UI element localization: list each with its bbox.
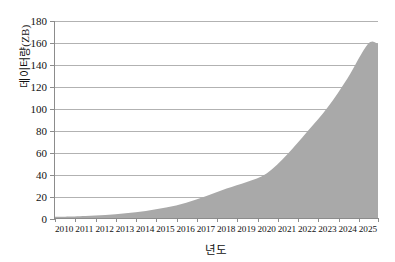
y-axis-tick xyxy=(50,109,55,110)
area-series-path xyxy=(55,41,378,218)
x-axis-tick-label: 2024 xyxy=(338,224,356,234)
plot-area: 020406080100120140160180 xyxy=(54,21,378,219)
x-axis-tick xyxy=(278,218,279,222)
y-axis-tick xyxy=(50,65,55,66)
x-axis-tick-label: 2013 xyxy=(116,224,134,234)
x-axis-tick-label: 2018 xyxy=(217,224,235,234)
x-axis-tick-label: 2025 xyxy=(359,224,377,234)
x-axis-tick-label: 2015 xyxy=(156,224,174,234)
x-axis-tick xyxy=(359,218,360,222)
y-axis-tick-label: 100 xyxy=(31,103,48,115)
y-axis-tick xyxy=(50,21,55,22)
x-axis-tick-label: 2016 xyxy=(176,224,194,234)
x-axis-tick-label: 2022 xyxy=(298,224,316,234)
y-axis-tick-label: 160 xyxy=(31,37,48,49)
y-axis-tick-label: 20 xyxy=(36,191,47,203)
y-axis-tick-label: 60 xyxy=(36,147,47,159)
x-axis-tick xyxy=(318,218,319,222)
area-series-svg xyxy=(55,21,378,218)
y-axis-tick-label: 0 xyxy=(42,213,48,225)
area-series xyxy=(55,21,378,218)
x-axis-tick xyxy=(75,218,76,222)
y-axis-tick xyxy=(50,43,55,44)
x-axis-tick xyxy=(237,218,238,222)
x-axis-tick xyxy=(136,218,137,222)
x-axis-tick xyxy=(298,218,299,222)
y-axis-tick xyxy=(50,153,55,154)
x-axis-tick-label: 2019 xyxy=(237,224,255,234)
x-axis-tick-label: 2014 xyxy=(136,224,154,234)
x-axis-tick xyxy=(339,218,340,222)
y-axis-tick-label: 80 xyxy=(36,125,47,137)
y-axis-tick-label: 140 xyxy=(31,59,48,71)
y-axis-tick-label: 40 xyxy=(36,169,47,181)
x-axis-tick-label: 2017 xyxy=(197,224,215,234)
x-axis-title: 년도 xyxy=(54,241,378,257)
y-axis-tick xyxy=(50,131,55,132)
x-axis-tick-label: 2012 xyxy=(95,224,113,234)
x-axis-tick xyxy=(378,218,379,222)
x-axis-tick-label: 2010 xyxy=(55,224,73,234)
x-axis-tick-label: 2023 xyxy=(318,224,336,234)
x-axis-tick xyxy=(96,218,97,222)
y-axis-tick-label: 180 xyxy=(31,15,48,27)
x-axis-tick xyxy=(258,218,259,222)
x-axis-tick-label: 2020 xyxy=(257,224,275,234)
x-axis-tick xyxy=(177,218,178,222)
x-axis-tick xyxy=(156,218,157,222)
chart-figure: 데이터량(ZB) 020406080100120140160180 년도 201… xyxy=(0,0,395,262)
x-axis-tick xyxy=(197,218,198,222)
y-axis-tick-label: 120 xyxy=(31,81,48,93)
x-axis-tick-label: 2011 xyxy=(75,224,93,234)
x-axis-tick xyxy=(217,218,218,222)
x-axis-tick xyxy=(55,218,56,222)
y-axis-tick xyxy=(50,175,55,176)
x-axis-tick-label: 2021 xyxy=(278,224,296,234)
y-axis-tick xyxy=(50,197,55,198)
y-axis-tick xyxy=(50,87,55,88)
x-axis-tick xyxy=(116,218,117,222)
